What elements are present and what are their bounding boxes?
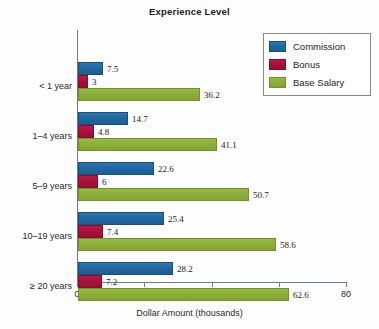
bar-value-bonus-4: 7.2 — [106, 277, 117, 287]
legend-label-base-salary: Base Salary — [293, 77, 344, 88]
chart-figure: Experience Level < 1 year 1–4 years 5–9 … — [0, 0, 379, 329]
bar-base-0 — [78, 88, 200, 101]
bar-value-bonus-2: 6 — [102, 177, 107, 187]
chart-legend: Commission Bonus Base Salary — [263, 33, 371, 96]
y-axis-label-0: < 1 year — [39, 81, 72, 91]
chart-title: Experience Level — [0, 6, 379, 17]
bar-value-base-2: 50.7 — [253, 190, 269, 200]
legend-item-commission: Commission — [269, 38, 365, 54]
bar-value-bonus-0: 3 — [92, 77, 97, 87]
bar-base-2 — [78, 188, 249, 201]
legend-label-commission: Commission — [293, 41, 345, 52]
bar-base-4 — [78, 288, 289, 301]
bar-value-bonus-3: 7.4 — [107, 227, 118, 237]
y-axis-label-4: ≥ 20 years — [30, 281, 72, 291]
bar-bonus-3 — [78, 225, 103, 238]
bar-bonus-0 — [78, 75, 88, 88]
x-tick-4 — [346, 283, 347, 287]
bar-commission-3 — [78, 212, 164, 225]
bar-value-base-0: 36.2 — [204, 90, 220, 100]
bar-value-commission-4: 28.2 — [177, 264, 193, 274]
bar-commission-1 — [78, 112, 128, 125]
legend-item-bonus: Bonus — [269, 56, 365, 72]
x-tick-2 — [212, 283, 213, 287]
x-axis-title: Dollar Amount (thousands) — [0, 308, 379, 318]
x-tick-1 — [144, 283, 145, 287]
bar-commission-2 — [78, 162, 154, 175]
bar-bonus-4 — [78, 275, 102, 288]
bar-value-commission-0: 7.5 — [107, 64, 118, 74]
bar-base-3 — [78, 238, 276, 251]
legend-swatch-base-salary-icon — [269, 77, 286, 88]
y-axis-label-3: 10–19 years — [22, 231, 72, 241]
legend-label-bonus: Bonus — [293, 59, 320, 70]
legend-swatch-bonus-icon — [269, 59, 286, 70]
bar-value-base-4: 62.6 — [293, 290, 309, 300]
bar-commission-4 — [78, 262, 173, 275]
y-axis-category-labels: < 1 year 1–4 years 5–9 years 10–19 years… — [0, 30, 72, 282]
bar-value-base-1: 41.1 — [221, 140, 237, 150]
bar-value-commission-2: 22.6 — [158, 164, 174, 174]
bar-bonus-1 — [78, 125, 94, 138]
bar-value-bonus-1: 4.8 — [98, 127, 109, 137]
bar-bonus-2 — [78, 175, 98, 188]
legend-item-base-salary: Base Salary — [269, 74, 365, 90]
bar-value-commission-1: 14.7 — [132, 114, 148, 124]
bar-commission-0 — [78, 62, 103, 75]
legend-swatch-commission-icon — [269, 41, 286, 52]
bar-base-1 — [78, 138, 217, 151]
y-axis-label-1: 1–4 years — [32, 131, 72, 141]
bar-value-base-3: 58.6 — [280, 240, 296, 250]
x-tick-label-4: 80 — [341, 289, 351, 299]
bar-value-commission-3: 25.4 — [168, 214, 184, 224]
x-tick-3 — [279, 283, 280, 287]
y-axis-label-2: 5–9 years — [32, 181, 72, 191]
